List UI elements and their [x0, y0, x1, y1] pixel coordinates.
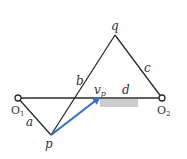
pivot-o2 [159, 95, 165, 101]
pivot-o1 [15, 95, 21, 101]
label-a: a [26, 115, 33, 129]
linkage-diagram: q c b d a p vp O1 O2 [0, 0, 187, 159]
label-b: b [76, 74, 84, 88]
highlight-region [100, 99, 138, 107]
velocity-vector-vp [51, 98, 99, 135]
label-q: q [111, 19, 119, 33]
label-o1: O1 [11, 104, 25, 118]
label-c: c [144, 61, 151, 75]
label-o2: O2 [157, 104, 171, 118]
label-d: d [122, 83, 130, 97]
label-p: p [45, 137, 53, 151]
label-vp: vp [94, 83, 106, 98]
